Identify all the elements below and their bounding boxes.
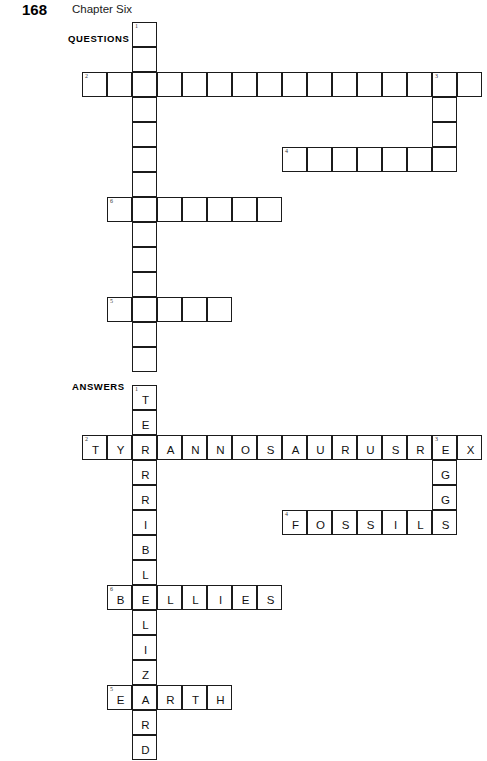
crossword-cell: Y [107, 435, 132, 460]
cell-letter: R [333, 436, 358, 461]
cell-letter: B [108, 586, 133, 611]
cell-letter: U [358, 436, 383, 461]
crossword-cell: E [232, 585, 257, 610]
cell-letter: A [133, 686, 158, 711]
crossword-cell: R [132, 710, 157, 735]
cell-letter: R [133, 461, 158, 486]
crossword-cell: S [332, 510, 357, 535]
cell-letter: E [433, 436, 458, 461]
crossword-cell: N [182, 435, 207, 460]
crossword-cell: 1T [132, 385, 157, 410]
crossword-cell: 2T [82, 435, 107, 460]
cell-letter: L [183, 586, 208, 611]
crossword-cell: O [232, 435, 257, 460]
crossword-cell: L [182, 585, 207, 610]
cell-letter: N [183, 436, 208, 461]
crossword-cell: 6B [107, 585, 132, 610]
crossword-cell: L [132, 560, 157, 585]
crossword-cell: R [332, 435, 357, 460]
cell-letter: Z [133, 661, 158, 686]
crossword-cell: R [132, 435, 157, 460]
crossword-cell: 3E [432, 435, 457, 460]
cell-letter: Y [108, 436, 133, 461]
cell-letter: E [233, 586, 258, 611]
crossword-cell: Z [132, 660, 157, 685]
crossword-cell: S [432, 510, 457, 535]
cell-letter: S [383, 436, 408, 461]
cell-letter: G [433, 461, 458, 486]
cell-letter: S [333, 511, 358, 536]
cell-letter: B [133, 536, 158, 561]
crossword-cell: 5E [107, 685, 132, 710]
cell-letter: S [258, 586, 283, 611]
crossword-cell: S [257, 435, 282, 460]
crossword-cell: I [382, 510, 407, 535]
cell-letter: L [158, 586, 183, 611]
cell-letter: O [308, 511, 333, 536]
crossword-cell: O [307, 510, 332, 535]
cell-letter: E [108, 686, 133, 711]
cell-letter: R [133, 486, 158, 511]
crossword-cell: S [382, 435, 407, 460]
cell-letter: E [133, 586, 158, 611]
crossword-cell: A [157, 435, 182, 460]
cell-letter: L [408, 511, 433, 536]
cell-letter: I [208, 586, 233, 611]
cell-letter: R [158, 686, 183, 711]
crossword-cell: R [132, 485, 157, 510]
cell-letter: S [258, 436, 283, 461]
cell-letter: S [433, 511, 458, 536]
crossword-cell: I [207, 585, 232, 610]
cell-letter: T [83, 436, 108, 461]
crossword-cell: G [432, 485, 457, 510]
crossword-cell: A [282, 435, 307, 460]
cell-letter: R [408, 436, 433, 461]
cell-letter: R [133, 711, 158, 736]
crossword-cell: D [132, 735, 157, 760]
cell-letter: L [133, 561, 158, 586]
crossword-cell: G [432, 460, 457, 485]
crossword-cell: U [307, 435, 332, 460]
cell-letter: I [133, 511, 158, 536]
crossword-cell: R [132, 460, 157, 485]
cell-letter: F [283, 511, 308, 536]
crossword-cell: E [132, 410, 157, 435]
crossword-cell: N [207, 435, 232, 460]
crossword-cell: E [132, 585, 157, 610]
crossword-cell: I [132, 635, 157, 660]
cell-letter: N [208, 436, 233, 461]
crossword-cell: L [407, 510, 432, 535]
cell-letter: G [433, 486, 458, 511]
crossword-cell: S [357, 510, 382, 535]
crossword-cell: U [357, 435, 382, 460]
cell-letter: S [358, 511, 383, 536]
crossword-cell: R [157, 685, 182, 710]
cell-letter: L [133, 611, 158, 636]
cell-letter: H [208, 686, 233, 711]
cell-letter: R [133, 436, 158, 461]
crossword-cell: L [132, 610, 157, 635]
crossword-cell: S [257, 585, 282, 610]
cell-letter: I [383, 511, 408, 536]
cell-letter: X [458, 436, 483, 461]
cell-letter: O [233, 436, 258, 461]
cell-letter: D [133, 736, 158, 761]
crossword-cell: T [182, 685, 207, 710]
cell-letter: E [133, 411, 158, 436]
crossword-cell: A [132, 685, 157, 710]
cell-letter: U [308, 436, 333, 461]
cell-letter: A [283, 436, 308, 461]
cell-letter: A [158, 436, 183, 461]
cell-letter: I [133, 636, 158, 661]
crossword-cell: 4F [282, 510, 307, 535]
crossword-cell: B [132, 535, 157, 560]
crossword-cell: H [207, 685, 232, 710]
crossword-cell: R [407, 435, 432, 460]
crossword-cell: I [132, 510, 157, 535]
crossword-cell: X [457, 435, 482, 460]
cell-letter: T [183, 686, 208, 711]
crossword-cell: L [157, 585, 182, 610]
cell-letter: T [133, 386, 158, 411]
